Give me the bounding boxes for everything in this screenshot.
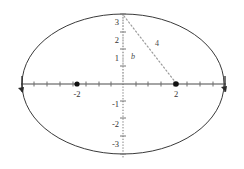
y-tick-label-2: 2 (107, 36, 119, 45)
focus-point-right (173, 81, 179, 87)
ellipse-diagram-figure: 3 2 1 -1 -2 -3 -2 2 4 b (0, 0, 244, 169)
focus-point-left (74, 81, 79, 86)
hypotenuse-length-label: 4 (155, 40, 159, 48)
semi-minor-axis-label: b (131, 53, 135, 61)
y-tick-label-1: 1 (107, 54, 119, 63)
y-tick-label-3: 3 (107, 18, 119, 27)
y-tick-label-neg1: -1 (104, 100, 119, 109)
x-tick-label-neg2: -2 (67, 90, 87, 99)
y-tick-label-neg3: -3 (104, 140, 119, 149)
focal-radius-segment (124, 16, 176, 83)
y-tick-label-neg2: -2 (104, 120, 119, 129)
x-tick-label-2: 2 (167, 90, 185, 99)
plot-canvas (0, 0, 244, 169)
